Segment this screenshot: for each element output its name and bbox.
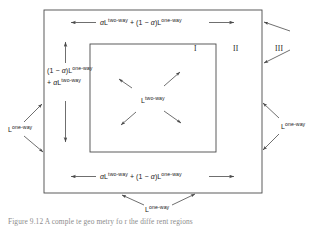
top-label-sup2: one-way	[161, 17, 181, 23]
region-label-ii: II	[233, 44, 239, 53]
left-boundary-label-line2: + αLtwo-way	[47, 78, 81, 87]
center-arrow-upper-right	[164, 72, 180, 86]
bottom-label-sup1: two-way	[108, 171, 128, 177]
center-label-sup: two-way	[145, 95, 165, 101]
left-outer-label: Lone-way	[8, 125, 32, 134]
top-label-plus: + (1 −	[130, 19, 151, 26]
region-label-i: I	[194, 44, 197, 53]
figure-caption: Figure 9.12 A comple te geo metry fo r t…	[8, 217, 304, 226]
bottom-label-plus: + (1 −	[130, 173, 151, 180]
center-arrow-lower-right	[164, 111, 181, 123]
figure-container: αLtwo-way + (1 − α)Lone-way αLtwo-way + …	[0, 0, 310, 226]
left-outer-sup: one-way	[12, 124, 32, 130]
bottom-boundary-label: αLtwo-way + (1 − α)Lone-way	[100, 172, 182, 181]
left-outer-arrow-up	[24, 104, 42, 122]
bottom-outer-arrow-left	[122, 195, 144, 205]
bottom-outer-arrow-right	[172, 194, 195, 205]
right-outer-sup: one-way	[285, 121, 305, 127]
right-outer-label: Lone-way	[281, 122, 305, 131]
bottom-label-sup2: one-way	[161, 171, 181, 177]
center-arrow-lower-left	[121, 112, 136, 125]
right-outer-arrow-up	[263, 103, 279, 118]
top-boundary-label: αLtwo-way + (1 − α)Lone-way	[100, 18, 182, 27]
region-label-iii: III	[275, 44, 283, 53]
left-label-sup1: one-way	[72, 65, 92, 71]
region-iii-arrow-up	[264, 22, 290, 31]
left-label-sup2: two-way	[61, 77, 81, 83]
bottom-outer-sup: one-way	[149, 204, 169, 210]
right-outer-arrow-down	[263, 134, 279, 150]
diagram-svg	[0, 0, 310, 226]
center-region-label: Ltwo-way	[141, 96, 165, 105]
top-label-sup1: two-way	[108, 17, 128, 23]
center-arrow-upper-left	[119, 79, 132, 88]
left-outer-arrow-down	[24, 136, 43, 152]
left-label-open: (1 −	[47, 67, 62, 74]
left-boundary-label-line1: (1 − α)Lone-way	[47, 66, 93, 75]
bottom-outer-label: Lone-way	[145, 205, 169, 214]
